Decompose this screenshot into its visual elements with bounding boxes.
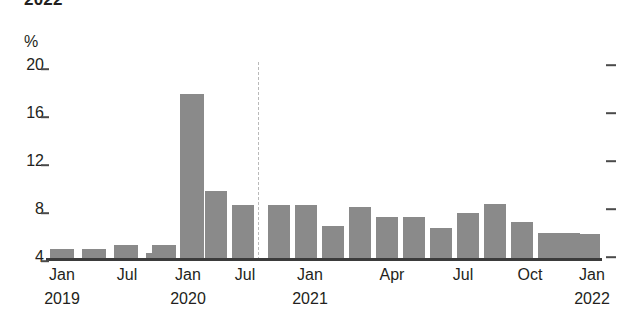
y-tick-mark-left-8 <box>41 212 49 214</box>
bar-jan-2021 <box>268 205 290 260</box>
y-tick-mark-right-8 <box>606 208 616 210</box>
y-tick-mark-right-12 <box>606 160 616 162</box>
x-tick-label-month-7: Oct <box>518 266 543 284</box>
x-tick-label-month-6: Jul <box>453 266 473 284</box>
y-tick-mark-left-20 <box>41 68 49 70</box>
bar-oct-2021 <box>511 222 533 260</box>
bar-nov-2021 <box>538 233 560 260</box>
bar-jul-2020 <box>205 191 227 260</box>
forecast-divider-line <box>258 62 259 260</box>
x-tick-label-year-8: 2022 <box>574 290 610 308</box>
bar-oct-2020 <box>232 205 254 260</box>
bars-layer <box>0 0 626 260</box>
y-tick-mark-right-20 <box>606 64 616 66</box>
x-tick-label-month-8: Jan <box>579 266 605 284</box>
bar-sep-2021 <box>484 204 506 260</box>
y-tick-mark-right-4 <box>606 256 616 258</box>
bar-may-2021 <box>376 217 398 260</box>
bar-dec-2021 <box>558 233 580 260</box>
y-tick-mark-left-4 <box>41 260 49 262</box>
bar-apr-2020 <box>180 94 204 260</box>
bar-aug-2021 <box>457 213 479 260</box>
x-tick-label-month-5: Apr <box>380 266 405 284</box>
bar-feb-2021 <box>295 205 317 260</box>
x-tick-label-year-2: 2020 <box>170 290 206 308</box>
bar-apr-2021 <box>349 207 371 260</box>
x-tick-label-month-0: Jan <box>49 266 75 284</box>
x-tick-label-month-1: Jul <box>117 266 137 284</box>
y-tick-mark-left-12 <box>41 164 49 166</box>
chart-root: 2022 % 20161284 Jan2019JulJan2020JulJan2… <box>0 0 626 335</box>
x-tick-label-month-3: Jul <box>235 266 255 284</box>
x-tick-label-year-4: 2021 <box>292 290 328 308</box>
y-tick-mark-right-16 <box>606 112 616 114</box>
x-tick-label-year-0: 2019 <box>44 290 80 308</box>
x-tick-label-month-2: Jan <box>175 266 201 284</box>
bar-mar-2021 <box>322 226 344 260</box>
bar-jun-2021 <box>403 217 425 260</box>
y-tick-mark-left-16 <box>41 116 49 118</box>
bar-jan-2022 <box>578 234 600 260</box>
x-axis-baseline <box>46 258 602 261</box>
x-tick-label-month-4: Jan <box>297 266 323 284</box>
bar-jul-2021 <box>430 228 452 260</box>
